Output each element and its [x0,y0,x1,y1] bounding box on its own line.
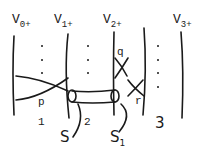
label-v0: V0+ [12,12,31,30]
region-label-1: 1 [38,116,45,128]
crossing-label-q: q [117,46,124,58]
v2-base: V [103,12,111,27]
s1-base: S [110,128,120,146]
line-v1 [66,34,69,118]
arrow-s [73,104,81,137]
crossing-q [115,58,128,78]
label-v2: V2+ [103,12,122,30]
crossing-label-p: p [38,96,45,108]
line-v3 [181,32,183,118]
tube [72,90,115,103]
v3-sub: 3+ [181,20,192,30]
region-label-2: 2 [84,116,91,128]
region-label-3: 3 [155,114,165,132]
crossing-r [128,80,144,96]
v0-base: V [12,12,20,27]
v3-base: V [173,12,181,27]
line-v0 [13,36,14,115]
v2-sub: 2+ [111,20,122,30]
crossing-label-r: r [135,95,142,107]
surface-label-s: S [60,128,70,146]
label-v1: V1+ [54,12,73,30]
line-v2b [143,28,145,115]
v0-sub: 0+ [20,20,31,30]
v1-base: V [54,12,62,27]
label-v3: V3+ [173,12,192,30]
surface-label-s1: S1 [110,128,125,148]
v1-sub: 1+ [62,20,73,30]
s1-sub: 1 [120,138,126,148]
